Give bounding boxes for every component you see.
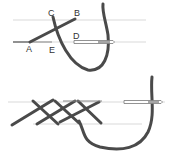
embroidery-stitch-diagram: C B A E D	[0, 0, 172, 157]
stitch-A-B	[30, 19, 75, 42]
working-thread	[53, 4, 108, 70]
top-panel: C B A E D	[13, 4, 146, 70]
label-B: B	[74, 8, 80, 18]
needle-icon-bottom	[124, 101, 163, 104]
label-E: E	[49, 45, 55, 55]
label-C: C	[48, 8, 55, 18]
bottom-panel	[8, 77, 165, 149]
needle-icon	[74, 41, 115, 44]
herringbone-stitches	[12, 100, 101, 125]
label-A: A	[26, 44, 32, 54]
label-D: D	[73, 31, 80, 41]
